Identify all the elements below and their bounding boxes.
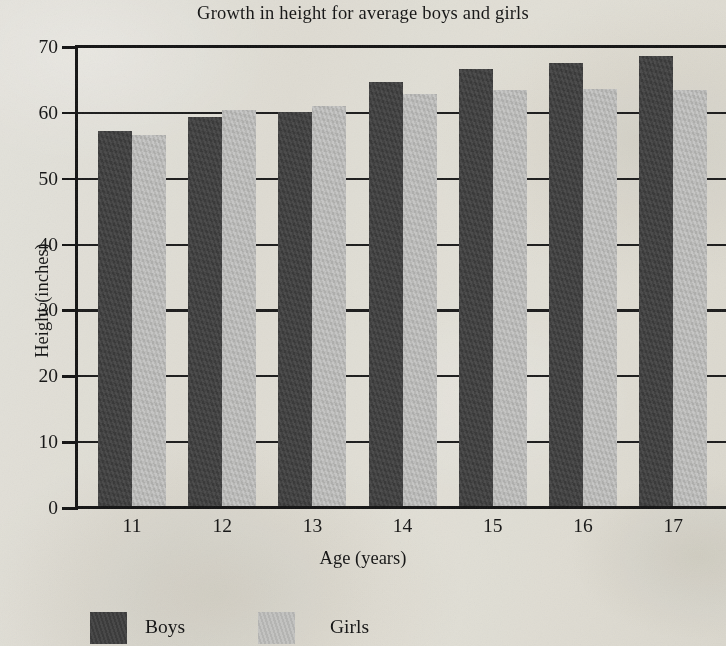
bar-girls-age-12 xyxy=(222,110,256,508)
y-axis-title: Height (inches) xyxy=(32,216,53,386)
x-axis-tick-label-15: 15 xyxy=(458,515,528,537)
y-axis-tick-label: 10 xyxy=(14,431,58,453)
bar-boys-age-17 xyxy=(639,56,673,508)
y-axis-tick xyxy=(62,309,77,312)
y-axis-tick xyxy=(62,178,77,181)
x-axis-tick-label-11: 11 xyxy=(97,515,167,537)
bar-boys-age-13 xyxy=(278,112,312,508)
bar-girls-age-16 xyxy=(583,89,617,509)
legend-swatch-girls xyxy=(258,612,295,644)
x-axis-tick-label-17: 17 xyxy=(638,515,708,537)
bar-boys-age-16 xyxy=(549,63,583,508)
bar-chart: Growth in height for average boys and gi… xyxy=(0,0,726,646)
bar-girls-age-11 xyxy=(132,135,166,508)
bar-girls-age-17 xyxy=(673,90,707,508)
x-axis-tick-label-12: 12 xyxy=(187,515,257,537)
legend-swatch-boys xyxy=(90,612,127,644)
x-axis-tick-label-13: 13 xyxy=(277,515,347,537)
plot-area xyxy=(77,47,726,508)
y-axis-tick-label: 70 xyxy=(14,36,58,58)
legend-label-girls: Girls xyxy=(330,616,369,638)
bar-boys-age-11 xyxy=(98,131,132,508)
x-axis-title: Age (years) xyxy=(0,548,726,569)
x-axis-tick-label-14: 14 xyxy=(368,515,438,537)
bar-boys-age-14 xyxy=(369,82,403,508)
y-axis-tick xyxy=(62,46,77,49)
chart-title: Growth in height for average boys and gi… xyxy=(0,3,726,24)
y-axis-tick xyxy=(62,441,77,444)
y-axis-tick-label: 60 xyxy=(14,102,58,124)
x-axis-tick-label-16: 16 xyxy=(548,515,618,537)
bar-boys-age-15 xyxy=(459,69,493,508)
y-axis-tick-label: 50 xyxy=(14,168,58,190)
chart-legend: Boys Girls xyxy=(0,612,726,646)
bar-boys-age-12 xyxy=(188,117,222,508)
x-axis-line xyxy=(75,506,726,509)
y-axis-tick xyxy=(62,375,77,378)
bar-girls-age-15 xyxy=(493,90,527,508)
y-axis-tick-label: 0 xyxy=(14,497,58,519)
legend-label-boys: Boys xyxy=(145,616,185,638)
plot-top-rule xyxy=(77,45,726,48)
y-axis-tick xyxy=(62,112,77,115)
bar-girls-age-14 xyxy=(403,94,437,508)
y-axis-tick xyxy=(62,507,77,510)
y-axis-tick xyxy=(62,244,77,247)
bar-girls-age-13 xyxy=(312,106,346,508)
